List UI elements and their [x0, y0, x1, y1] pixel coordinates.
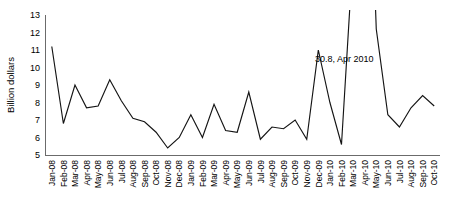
x-tick-label: Oct-09 — [290, 160, 300, 186]
x-tick-label: Jan-08 — [47, 160, 57, 186]
x-tick-label: Mar-08 — [70, 160, 80, 187]
x-tick-label: Feb-08 — [59, 160, 69, 187]
x-tick-label: Aug-09 — [267, 160, 277, 188]
y-axis-title: Billion dollars — [5, 57, 16, 113]
line-chart: 5678910111213 Jan-08Feb-08Mar-08Apr-08Ma… — [0, 0, 450, 211]
x-tick-label: Aug-08 — [128, 160, 138, 188]
x-tick-label: Aug-10 — [406, 160, 416, 188]
chart-container: 5678910111213 Jan-08Feb-08Mar-08Apr-08Ma… — [0, 0, 450, 211]
x-tick-label: Jul-08 — [117, 160, 127, 183]
x-tick-label: Feb-10 — [337, 160, 347, 187]
x-tick-label: May-08 — [93, 160, 103, 189]
x-tick-label: Jun-10 — [383, 160, 393, 186]
y-axis-tick-labels: 5678910111213 — [30, 10, 40, 160]
x-tick-label: Jul-10 — [395, 160, 405, 183]
x-tick-label: Jun-09 — [244, 160, 254, 186]
x-tick-label: Sep-09 — [279, 160, 289, 188]
y-tick-label: 7 — [35, 115, 40, 125]
x-tick-label: Sep-08 — [140, 160, 150, 188]
y-tick-label: 10 — [30, 63, 40, 73]
x-tick-label: Oct-08 — [151, 160, 161, 186]
x-tick-label: Apr-10 — [360, 160, 370, 186]
y-tick-label: 9 — [35, 80, 40, 90]
peak-annotation-label: 30.8, Apr 2010 — [315, 54, 374, 64]
x-tick-label: Dec-09 — [314, 160, 324, 188]
x-tick-label: Mar-10 — [348, 160, 358, 187]
x-tick-label: Nov-09 — [302, 160, 312, 188]
x-tick-label: May-09 — [232, 160, 242, 189]
y-tick-label: 5 — [35, 150, 40, 160]
y-tick-label: 8 — [35, 98, 40, 108]
x-tick-label: Mar-09 — [209, 160, 219, 187]
x-tick-label: Nov-08 — [163, 160, 173, 188]
data-series-line — [52, 0, 434, 148]
y-tick-label: 12 — [30, 28, 40, 38]
y-tick-label: 13 — [30, 10, 40, 20]
x-tick-label: Apr-09 — [221, 160, 231, 186]
x-tick-label: Jul-09 — [256, 160, 266, 183]
y-tick-label: 6 — [35, 133, 40, 143]
x-tick-label: May-10 — [371, 160, 381, 189]
x-tick-label: Jan-09 — [186, 160, 196, 186]
x-tick-label: Dec-08 — [174, 160, 184, 188]
y-tick-label: 11 — [31, 45, 40, 55]
x-tick-label: Jun-08 — [105, 160, 115, 186]
x-tick-label: Sep-10 — [418, 160, 428, 188]
x-tick-label: Jan-10 — [325, 160, 335, 186]
x-axis-tick-labels: Jan-08Feb-08Mar-08Apr-08May-08Jun-08Jul-… — [47, 160, 439, 189]
x-tick-label: Feb-09 — [198, 160, 208, 187]
x-tick-label: Oct-10 — [429, 160, 439, 186]
x-tick-label: Apr-08 — [82, 160, 92, 186]
